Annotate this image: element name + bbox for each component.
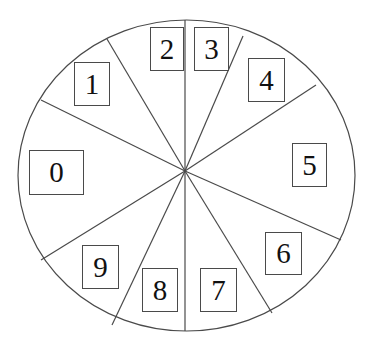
sector-label-5: 5 [292, 143, 327, 187]
sector-wheel-diagram: 0123456789 [0, 0, 375, 354]
sector-label-text: 3 [204, 35, 219, 64]
sector-label-2: 2 [150, 27, 184, 71]
sector-label-text: 9 [93, 253, 108, 282]
sector-label-text: 1 [85, 70, 100, 99]
sector-label-text: 2 [160, 35, 175, 64]
sector-label-6: 6 [265, 232, 302, 275]
sector-label-text: 8 [153, 276, 168, 305]
sector-label-text: 4 [259, 66, 274, 95]
sector-label-7: 7 [200, 268, 237, 312]
sector-label-text: 6 [276, 239, 291, 268]
sector-label-text: 0 [49, 158, 64, 187]
sector-label-text: 5 [302, 151, 317, 180]
sector-label-text: 7 [211, 276, 226, 305]
sector-label-3: 3 [194, 27, 229, 71]
sector-label-0: 0 [29, 150, 84, 195]
sector-label-4: 4 [248, 58, 285, 102]
sector-label-1: 1 [74, 62, 110, 106]
sector-label-9: 9 [82, 245, 119, 289]
sector-label-8: 8 [142, 268, 178, 312]
